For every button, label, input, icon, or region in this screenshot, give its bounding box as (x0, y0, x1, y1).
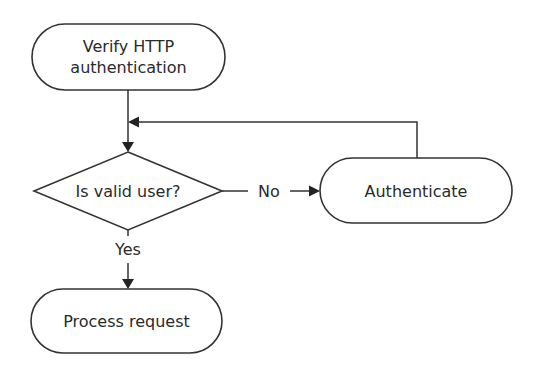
arrow-left-icon (128, 117, 139, 128)
node-verify-label-line2: authentication (70, 58, 186, 77)
node-decision-label: Is valid user? (76, 182, 181, 201)
terminator-shape (32, 24, 225, 90)
arrow-down-icon (122, 142, 134, 152)
flowchart-canvas: Verify HTTP authentication Is valid user… (0, 0, 539, 375)
edge-authenticate-loop (128, 117, 417, 159)
node-verify-http-authentication: Verify HTTP authentication (32, 24, 225, 90)
node-authenticate: Authenticate (320, 158, 512, 223)
edge-decision-yes: Yes (114, 230, 141, 289)
arrow-right-icon (309, 186, 320, 197)
edge-label-no: No (258, 182, 280, 201)
edge-decision-no: No (222, 182, 320, 201)
loop-connector-line (136, 122, 417, 158)
edge-label-yes: Yes (114, 240, 141, 259)
node-authenticate-label: Authenticate (365, 182, 468, 201)
node-verify-label-line1: Verify HTTP (83, 37, 175, 56)
node-decision-is-valid-user: Is valid user? (34, 152, 222, 230)
arrow-down-icon (122, 279, 134, 289)
node-process-request: Process request (31, 289, 222, 353)
node-process-label: Process request (63, 312, 190, 331)
